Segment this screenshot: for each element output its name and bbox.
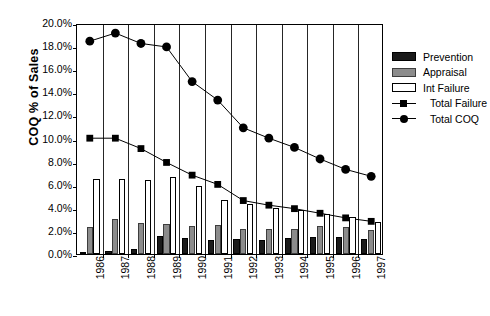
bar-appraisal [189, 226, 195, 254]
bar-group [128, 25, 154, 254]
x-tick-label: 1995 [324, 256, 336, 302]
y-tick-label: 14.0% [24, 87, 72, 97]
bar-appraisal [266, 229, 272, 254]
bar-appraisal [163, 224, 169, 254]
bar-appraisal [138, 223, 144, 254]
y-axis-tick-labels: 20.0%18.0%16.0%14.0%12.0%10.0%8.0%6.0%4.… [22, 0, 72, 316]
bar-group [77, 25, 103, 254]
bar-intfailure [221, 200, 227, 254]
legend-circle-marker-icon [392, 113, 416, 124]
x-tick-label: 1996 [350, 256, 362, 302]
x-tick-label: 1990 [196, 256, 208, 302]
bar-intfailure [145, 180, 151, 254]
x-tick-label: 1992 [247, 256, 259, 302]
legend-label: Appraisal [423, 66, 467, 78]
bar-intfailure [119, 179, 125, 254]
bar-prevention [157, 236, 163, 254]
legend-item: Appraisal [392, 65, 487, 81]
y-tick-label: 4.0% [24, 203, 72, 213]
bar-appraisal [343, 227, 349, 254]
y-tick-label: 2.0% [24, 226, 72, 236]
bar-group [154, 25, 180, 254]
bar-group [179, 25, 205, 254]
bar-group [333, 25, 359, 254]
bar-group [282, 25, 308, 254]
y-tick-label: 18.0% [24, 41, 72, 51]
bar-group [307, 25, 333, 254]
bar-appraisal [215, 225, 221, 254]
legend-label: Prevention [423, 51, 473, 63]
bar-prevention [105, 251, 111, 254]
x-tick-label: 1994 [298, 256, 310, 302]
bar-intfailure [93, 179, 99, 254]
bar-appraisal [240, 229, 246, 254]
bar-appraisal [87, 227, 93, 254]
y-tick-label: 6.0% [24, 180, 72, 190]
chart-legend: PreventionAppraisalInt FailureTotal Fail… [392, 49, 487, 127]
legend-swatch-appraisal [392, 68, 416, 77]
y-tick-mark [73, 256, 77, 257]
legend-marker [400, 100, 407, 107]
x-tick-label: 1987 [119, 256, 131, 302]
bar-intfailure [170, 177, 176, 254]
bar-prevention [310, 237, 316, 254]
x-axis-tick-labels: 1986198719881989199019911992199319941995… [76, 258, 383, 316]
legend-square-marker-icon [392, 98, 416, 109]
bar-prevention [208, 240, 214, 254]
plot-area [76, 24, 383, 255]
bar-group [256, 25, 282, 254]
bar-prevention [131, 249, 137, 254]
bar-prevention [259, 240, 265, 254]
bar-prevention [361, 239, 367, 254]
legend-item: Total Failure [392, 96, 487, 112]
coq-chart: COQ % of Sales 20.0%18.0%16.0%14.0%12.0%… [0, 0, 490, 316]
bar-intfailure [298, 210, 304, 254]
y-tick-label: 16.0% [24, 64, 72, 74]
bar-intfailure [349, 217, 355, 254]
bar-intfailure [196, 186, 202, 254]
y-tick-label: 10.0% [24, 134, 72, 144]
bar-prevention [285, 238, 291, 254]
plot-inner [77, 25, 382, 254]
bar-intfailure [375, 222, 381, 254]
legend-item: Int Failure [392, 80, 487, 96]
bar-prevention [233, 239, 239, 254]
bar-group [231, 25, 257, 254]
bar-intfailure [247, 204, 253, 254]
x-tick-label: 1997 [375, 256, 387, 302]
x-tick-label: 1986 [94, 256, 106, 302]
y-tick-label: 12.0% [24, 110, 72, 120]
x-tick-label: 1989 [171, 256, 183, 302]
bar-prevention [80, 252, 86, 254]
bar-appraisal [368, 230, 374, 254]
y-tick-label: 8.0% [24, 157, 72, 167]
bar-group [358, 25, 384, 254]
y-tick-label: 20.0% [24, 18, 72, 28]
bar-group [103, 25, 129, 254]
legend-item: Total COQ [392, 111, 487, 127]
x-tick-label: 1988 [145, 256, 157, 302]
bar-appraisal [112, 219, 118, 254]
bar-intfailure [324, 214, 330, 254]
x-tick-label: 1993 [273, 256, 285, 302]
legend-label: Int Failure [423, 82, 470, 94]
bar-appraisal [291, 229, 297, 254]
bar-appraisal [317, 226, 323, 254]
x-tick-label: 1991 [222, 256, 234, 302]
legend-swatch-prevention [392, 52, 416, 61]
legend-swatch-intfailure [392, 83, 416, 92]
legend-label: Total COQ [423, 113, 479, 125]
legend-label: Total Failure [423, 97, 487, 109]
bar-intfailure [273, 208, 279, 254]
y-tick-label: 0.0% [24, 249, 72, 259]
legend-marker [400, 115, 408, 123]
bar-prevention [336, 237, 342, 254]
bar-prevention [182, 238, 188, 254]
bar-group [205, 25, 231, 254]
legend-item: Prevention [392, 49, 487, 65]
